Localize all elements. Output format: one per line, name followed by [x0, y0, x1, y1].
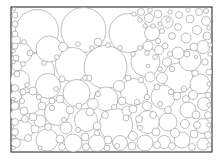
packed-circle [129, 105, 137, 113]
packed-circle [152, 128, 160, 136]
packed-circle [95, 91, 100, 96]
packed-circle [207, 143, 211, 147]
packed-circle [25, 135, 32, 142]
packed-circle [114, 81, 125, 92]
packed-circle [59, 76, 65, 82]
packed-circle [60, 122, 72, 134]
packed-circle [12, 21, 18, 27]
packed-circle [137, 135, 153, 151]
packed-circle [22, 116, 29, 123]
packed-circle [205, 112, 212, 119]
packed-circle [205, 132, 212, 139]
packed-circle [106, 43, 111, 48]
packed-circle [192, 111, 200, 119]
packed-circle [186, 8, 190, 12]
packed-circle [89, 135, 106, 152]
packed-circle [193, 26, 202, 35]
packed-circle [166, 18, 170, 22]
packed-circle [138, 18, 142, 22]
packed-circle [86, 108, 94, 116]
packed-circle [202, 59, 208, 65]
packed-circle [176, 12, 183, 19]
packed-circle [12, 60, 16, 64]
packed-circle [208, 43, 212, 47]
packed-circle [134, 99, 139, 104]
packed-circle [196, 9, 203, 16]
packed-circle [197, 41, 210, 54]
packed-circle [19, 98, 24, 103]
packed-circle [203, 32, 211, 40]
packed-circle [143, 102, 152, 111]
packed-circle [12, 7, 16, 11]
packed-circle [207, 123, 211, 127]
packed-circle [131, 52, 136, 57]
packed-circle [143, 41, 153, 51]
packed-circle [55, 55, 60, 60]
packed-circle [76, 103, 82, 109]
packed-circle [192, 70, 198, 76]
packed-circle [207, 103, 211, 107]
packed-circle [29, 87, 37, 95]
packed-circle [83, 76, 88, 81]
packed-circle [36, 94, 41, 99]
packed-circle [184, 51, 190, 57]
packed-circle [12, 31, 18, 37]
packed-circle [186, 15, 194, 23]
packed-circle [190, 43, 198, 51]
packed-circle [154, 84, 160, 90]
packed-circle [181, 86, 187, 92]
packed-circle [169, 143, 176, 150]
packed-circle [169, 33, 176, 40]
packed-circle [49, 98, 55, 104]
packed-circle [202, 17, 211, 26]
packed-circle [81, 133, 89, 141]
packed-circle [168, 89, 174, 95]
packed-circle [169, 66, 174, 71]
packed-circle [172, 47, 184, 59]
packed-circle [138, 9, 145, 16]
packed-circle [38, 102, 46, 110]
packed-circle [25, 83, 30, 88]
packed-circle [76, 42, 81, 47]
packed-circle [63, 80, 90, 107]
packed-circle [125, 75, 131, 81]
packed-circle [158, 67, 163, 72]
packed-circle [90, 46, 95, 51]
packed-circle [123, 115, 129, 121]
packed-circle [12, 12, 18, 18]
packed-circle [14, 71, 20, 77]
packed-circle [129, 132, 138, 141]
packed-circle [145, 72, 155, 82]
packed-circle [27, 50, 33, 56]
packed-circle [118, 97, 126, 105]
packed-circle [83, 144, 90, 151]
packed-circle [104, 136, 112, 144]
packed-circle [163, 58, 172, 67]
packed-circle [157, 73, 168, 84]
packed-circle [12, 49, 16, 53]
packed-circle [207, 26, 211, 30]
packed-circle [111, 104, 116, 109]
packed-circle [56, 135, 64, 143]
packed-circle [158, 22, 162, 26]
packed-circle [31, 125, 39, 133]
packed-circle [145, 14, 154, 23]
packed-circle [42, 61, 47, 66]
packed-circle [159, 28, 164, 33]
packed-circle [66, 106, 74, 114]
packed-circle [151, 24, 155, 28]
packed-circle [206, 69, 212, 75]
packed-circle [175, 24, 182, 31]
packed-circle [118, 46, 123, 51]
packed-circle [94, 38, 102, 46]
packed-circle [136, 116, 143, 123]
packed-circle [12, 43, 18, 49]
packed-circle [150, 112, 157, 119]
packed-circle [190, 130, 198, 138]
packed-circle [153, 55, 158, 60]
packed-circle [29, 113, 37, 121]
packed-circle [12, 135, 16, 139]
packed-circle [155, 38, 160, 43]
packed-circle [113, 136, 128, 151]
packed-circle [93, 122, 101, 130]
